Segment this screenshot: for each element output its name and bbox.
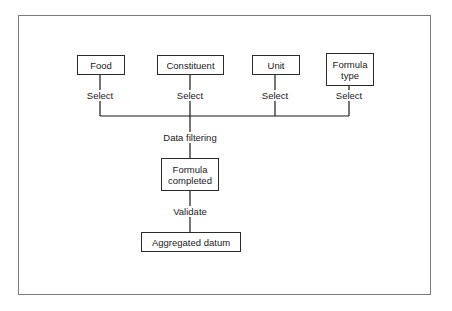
node-formula-completed: Formula completed [161,158,219,191]
node-food: Food [77,55,125,75]
node-aggregated-datum: Aggregated datum [141,232,241,252]
edge-label-select-food: Select [86,90,114,101]
edge-label-select-formula-type: Select [335,90,363,101]
node-unit: Unit [252,55,300,75]
edge-label-validate: Validate [172,206,208,217]
edge-label-select-unit: Select [261,90,289,101]
edge-label-data-filtering: Data filtering [162,132,217,143]
node-formula-type: Formula type [326,53,374,86]
node-constituent: Constituent [157,55,224,75]
edge-label-select-constituent: Select [176,90,204,101]
connector-lines [0,0,452,311]
